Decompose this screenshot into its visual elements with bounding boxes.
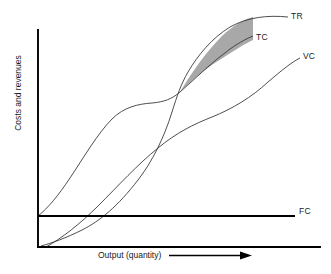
arrow-right-icon [168, 250, 254, 261]
profit-shaded-region [180, 17, 253, 92]
curve-total-cost [38, 36, 253, 216]
y-axis-title: Costs and revenues [13, 37, 23, 149]
curve-label-fc: FC [299, 207, 311, 216]
curve-total-revenue [41, 16, 288, 246]
break-even-chart: TR TC VC FC Output (quantity) Costs and … [0, 0, 331, 274]
curve-variable-cost [46, 58, 300, 247]
x-axis-title: Output (quantity) [98, 250, 161, 260]
curve-label-vc: VC [303, 52, 315, 61]
curve-label-tr: TR [291, 12, 303, 21]
chart-plot-area [0, 0, 331, 274]
curve-label-tc: TC [256, 33, 268, 42]
